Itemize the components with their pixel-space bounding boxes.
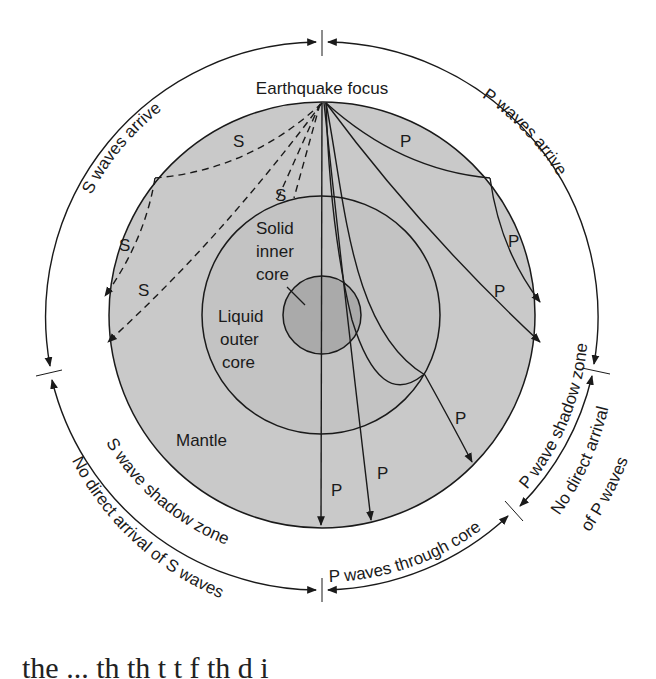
p-waves-arrive-label: P waves arrive	[480, 85, 572, 179]
p-wave-label: P	[455, 409, 466, 428]
p-wave-label: P	[331, 481, 342, 500]
s-wave-label: S	[275, 186, 286, 205]
cropped-caption-text: the ... th th t t f th d i	[22, 648, 656, 679]
svg-text:core: core	[256, 265, 289, 284]
s-waves-arrive-label: S waves arrive	[78, 98, 165, 197]
svg-text:Solid: Solid	[256, 219, 294, 238]
p-wave-label: P	[400, 132, 411, 151]
p-wave-label: P	[494, 282, 505, 301]
mantle-label: Mantle	[176, 431, 227, 450]
s-wave-label: S	[233, 132, 244, 151]
seismic-wave-diagram: Earthquake focus Solid inner core Liquid…	[0, 0, 656, 679]
p-wave-label: P	[377, 464, 388, 483]
svg-text:Liquid: Liquid	[218, 307, 263, 326]
s-wave-label: S	[119, 236, 130, 255]
earthquake-focus-label: Earthquake focus	[256, 79, 388, 98]
svg-text:core: core	[222, 353, 255, 372]
inner-core-label: Solid inner core	[256, 219, 294, 284]
svg-text:inner: inner	[256, 242, 294, 261]
p-wave-label: P	[508, 232, 519, 251]
s-wave-label: S	[138, 281, 149, 300]
svg-text:outer: outer	[220, 330, 259, 349]
